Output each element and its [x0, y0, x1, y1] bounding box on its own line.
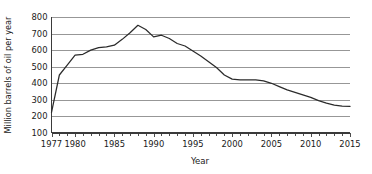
- y-tick-label: 400: [32, 78, 48, 88]
- x-tick-label: 1977: [41, 139, 62, 149]
- line-chart-figure: 100200300400500600700800 197719801985199…: [0, 0, 372, 174]
- x-tick-label: 1980: [64, 139, 85, 149]
- y-axis-title: Million barrels of oil per year: [3, 16, 13, 134]
- x-tick-label: 1995: [182, 139, 203, 149]
- y-tick-label: 700: [32, 29, 48, 39]
- x-tick-label: 2000: [222, 139, 243, 149]
- x-tick-label: 2010: [300, 139, 321, 149]
- x-tick-label: 2015: [339, 139, 360, 149]
- y-tick-label: 600: [32, 45, 48, 55]
- x-tick-label: 2005: [261, 139, 282, 149]
- y-tick-label: 500: [32, 62, 48, 72]
- y-tick-label: 200: [32, 111, 48, 121]
- y-tick-label: 800: [32, 12, 48, 22]
- x-axis-title: Year: [190, 156, 210, 166]
- y-tick-label: 300: [32, 95, 48, 105]
- y-tick-label: 100: [32, 128, 48, 138]
- x-tick-label: 1990: [143, 139, 164, 149]
- x-tick-label: 1985: [104, 139, 125, 149]
